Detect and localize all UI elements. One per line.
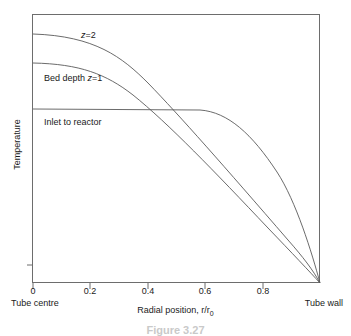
curve-label-z2: z=2 bbox=[81, 31, 96, 40]
curve-label-z1-suffix: =1 bbox=[92, 73, 102, 83]
xtick-label-0-2: 0.2 bbox=[84, 287, 97, 296]
figure-container: z=2 Bed depth z=1 Inlet to reactor 0 0.2… bbox=[0, 0, 351, 336]
label-tube-centre: Tube centre bbox=[11, 299, 59, 308]
curve-label-inlet: Inlet to reactor bbox=[44, 118, 102, 127]
x-axis-title-main: Radial position, r/r bbox=[137, 305, 210, 315]
label-tube-wall: Tube wall bbox=[305, 299, 343, 308]
y-axis-title: Temperature bbox=[13, 97, 22, 193]
xtick-label-0-4: 0.4 bbox=[142, 287, 155, 296]
x-axis-title-subscript: 0 bbox=[210, 310, 214, 317]
xtick-label-0-6: 0.6 bbox=[199, 287, 212, 296]
plot-frame bbox=[32, 14, 320, 283]
xtick-label-0-8: 0.8 bbox=[257, 287, 270, 296]
curve-label-z1: Bed depth z=1 bbox=[44, 74, 102, 83]
xtick-label-0: 0 bbox=[30, 287, 35, 296]
figure-caption: Figure 3.27 bbox=[0, 325, 351, 336]
curve-label-z1-prefix: Bed depth bbox=[44, 73, 88, 83]
curve-label-z2-suffix: =2 bbox=[86, 30, 96, 40]
